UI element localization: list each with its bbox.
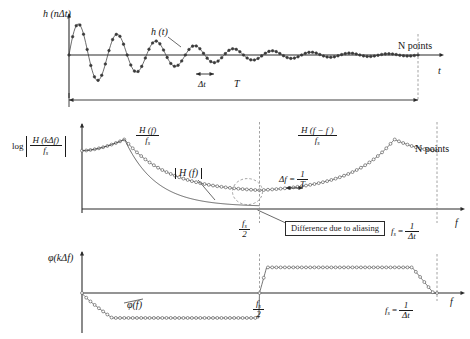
sample-marker (131, 147, 134, 150)
sample-marker (376, 155, 379, 158)
equals-sign: = (398, 227, 403, 236)
sample-marker (369, 55, 372, 58)
sample-marker (191, 45, 194, 48)
sample-marker (166, 56, 169, 59)
time-x-axis-label: t (438, 66, 441, 77)
sample-marker (359, 266, 362, 269)
sample-marker (165, 317, 168, 320)
sample-marker (395, 53, 398, 56)
sample-marker (410, 145, 413, 148)
sample-marker (186, 179, 189, 182)
sample-marker (224, 52, 227, 55)
sample-marker (359, 166, 362, 169)
sample-marker (199, 47, 202, 50)
sample-marker (195, 317, 198, 320)
sample-marker (188, 48, 191, 51)
fraction-denominator: fs (298, 136, 337, 146)
delta-f-label: Δf = 1 T (279, 170, 308, 190)
sample-marker (317, 182, 320, 185)
sample-marker (144, 57, 147, 60)
sample-marker (315, 52, 318, 55)
sample-marker (224, 317, 227, 320)
sample-marker (275, 266, 278, 269)
abs-bars: H (f) (175, 168, 202, 179)
sample-marker (347, 173, 350, 176)
sample-marker (169, 317, 172, 320)
sample-marker (133, 70, 136, 73)
sample-marker (393, 138, 396, 141)
aliasing-note-leader (258, 210, 289, 224)
time-n-points-label: N points (398, 41, 432, 52)
sample-marker (372, 266, 375, 269)
sample-marker (119, 317, 122, 320)
sample-marker (104, 63, 107, 66)
sample-marker (419, 276, 422, 279)
sample-marker (380, 53, 383, 56)
sample-marker (108, 49, 111, 52)
sample-marker (93, 303, 96, 306)
sample-marker (93, 76, 96, 79)
sample-marker (368, 266, 371, 269)
one-over-dt-fraction: 1 Δt (399, 301, 413, 321)
magnitude-x-axis-label: f (455, 218, 458, 229)
sample-marker (82, 33, 85, 36)
sample-marker (111, 38, 114, 41)
delta-f-text: Δf = (279, 175, 295, 184)
sample-marker (119, 35, 122, 38)
sample-marker (362, 55, 365, 58)
sample-marker (340, 53, 343, 56)
sample-marker (97, 307, 100, 310)
sample-marker (115, 33, 118, 36)
sample-marker (207, 317, 210, 320)
sample-marker (351, 266, 354, 269)
sample-marker (186, 317, 189, 320)
sample-marker (388, 52, 391, 55)
sample-marker (366, 55, 369, 58)
sample-marker (347, 266, 350, 269)
sample-marker (330, 179, 333, 182)
phase-x-axis-label: f (450, 297, 453, 308)
sample-marker (377, 54, 380, 57)
sample-marker (334, 177, 337, 180)
sample-marker (152, 317, 155, 320)
abs-bars: H (kΔf) fs (26, 136, 67, 157)
time-delta-t-arrow-left (196, 72, 201, 76)
sample-marker (267, 266, 270, 269)
sample-marker (296, 266, 299, 269)
time-delta-t-label: Δt (198, 80, 206, 89)
hs-f-minus-fs-over-fs-fraction: H (f − f ) fs (298, 126, 337, 147)
sample-marker (409, 55, 412, 58)
sample-marker (321, 266, 324, 269)
sample-marker (423, 281, 426, 284)
sample-marker (330, 266, 333, 269)
sample-marker (123, 317, 126, 320)
sample-marker (385, 147, 388, 150)
sample-marker (216, 185, 219, 188)
sample-marker (203, 317, 206, 320)
sample-marker (355, 266, 358, 269)
sample-marker (71, 35, 74, 38)
sample-marker (126, 54, 129, 57)
fraction-denominator: Δt (405, 232, 419, 241)
sample-marker (231, 48, 234, 51)
sample-marker (114, 317, 117, 320)
sample-marker (217, 60, 220, 63)
sample-marker (381, 266, 384, 269)
sample-marker (319, 53, 322, 56)
sample-marker (195, 181, 198, 184)
sample-marker (372, 158, 375, 161)
time-x-axis-arrow (440, 53, 445, 57)
sample-marker (190, 317, 193, 320)
hs-f-over-fs-fraction: H (f) fs (136, 126, 159, 147)
magnitude-fs-label: fs = 1 Δt (391, 222, 419, 242)
sample-marker (235, 48, 238, 51)
sample-marker (355, 169, 358, 172)
sample-marker (246, 57, 249, 60)
sample-marker (431, 291, 434, 294)
sample-marker (135, 317, 138, 320)
right-alias-term-label: H (f − f ) fs (298, 126, 337, 147)
sample-marker (190, 180, 193, 183)
one-over-t-fraction: 1 T (297, 170, 308, 190)
sample-marker (275, 50, 278, 53)
fs-over-2-fraction: fs 2 (239, 219, 250, 240)
